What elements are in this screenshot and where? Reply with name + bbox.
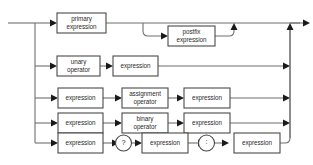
primary-expression-label-line1: primary <box>71 15 93 23</box>
arrow-into-primary <box>50 20 57 27</box>
arrow-into-binary-expr-right <box>177 120 184 127</box>
arrow-into-binary-operator <box>115 120 122 127</box>
arrow-into-unary-expression <box>106 63 113 70</box>
binary-operator-label-line2: operator <box>133 123 156 131</box>
node-ternary-expression-then[interactable]: expression <box>142 133 188 153</box>
node-postfix-expression[interactable]: postfix expression <box>168 26 215 46</box>
node-binary-expression-left[interactable]: expression <box>58 113 103 133</box>
arrow-into-assign-expr-right <box>177 95 184 102</box>
assign-expression-left-label: expression <box>66 94 96 102</box>
binary-expression-right-label: expression <box>192 119 222 127</box>
ternary-expression-then-label: expression <box>150 139 180 147</box>
postfix-loop-up <box>215 26 234 36</box>
node-binary-expression-right[interactable]: expression <box>184 113 230 133</box>
assign-expression-right-label: expression <box>192 94 222 102</box>
node-ternary-expression-cond[interactable]: expression <box>58 133 103 153</box>
binary-expression-left-label: expression <box>66 119 96 127</box>
arrow-into-ternary-expr-cond <box>51 140 58 147</box>
ternary-out-curve <box>280 30 290 143</box>
assignment-operator-label-line1: assignment <box>129 90 161 98</box>
arrow-postfix-rejoin-up <box>231 23 238 30</box>
postfix-loop-down <box>143 23 162 36</box>
arrow-into-postfix <box>161 33 168 40</box>
ternary-colon-label: : <box>205 137 207 146</box>
primary-expression-label-line2: expression <box>67 23 97 31</box>
binary-operator-label-line1: binary <box>137 115 155 123</box>
node-assign-expression-left[interactable]: expression <box>58 88 103 108</box>
arrow-into-binary-expr-left <box>51 120 58 127</box>
arrow-exit <box>303 20 310 27</box>
ternary-question-label: ? <box>121 138 125 147</box>
arrow-assign-to-collector <box>283 95 290 102</box>
node-ternary-question[interactable]: ? <box>116 135 132 151</box>
arrow-into-ternary-expr-then <box>135 140 142 147</box>
arrow-into-assign-expr-left <box>51 95 58 102</box>
node-ternary-expression-else[interactable]: expression <box>234 133 280 153</box>
arrow-unary-to-collector <box>283 63 290 70</box>
node-ternary-colon[interactable]: : <box>199 135 215 151</box>
arrow-into-unary-operator <box>50 63 57 70</box>
arrow-into-assignment-operator <box>115 95 122 102</box>
railroad-diagram: primary expression postfix expression un… <box>0 0 313 165</box>
postfix-expression-label-line1: postfix <box>183 28 202 36</box>
unary-expression-label: expression <box>121 62 151 70</box>
arrow-collector-join-up <box>287 23 294 30</box>
node-binary-operator[interactable]: binary operator <box>122 113 168 133</box>
ternary-expression-cond-label: expression <box>66 139 96 147</box>
railroad-svg: primary expression postfix expression un… <box>0 0 313 165</box>
unary-operator-label-line2: operator <box>67 66 90 74</box>
node-primary-expression[interactable]: primary expression <box>57 13 106 33</box>
node-assign-expression-right[interactable]: expression <box>184 88 230 108</box>
assignment-operator-label-line2: operator <box>133 98 156 106</box>
node-unary-expression[interactable]: expression <box>113 56 158 76</box>
ternary-expression-else-label: expression <box>242 139 272 147</box>
unary-operator-label-line1: unary <box>71 58 87 66</box>
node-assignment-operator[interactable]: assignment operator <box>122 88 168 108</box>
postfix-expression-label-line2: expression <box>177 36 207 44</box>
arrow-binary-to-collector <box>283 120 290 127</box>
node-unary-operator[interactable]: unary operator <box>57 56 100 76</box>
arrow-into-ternary-expr-else <box>222 140 229 147</box>
